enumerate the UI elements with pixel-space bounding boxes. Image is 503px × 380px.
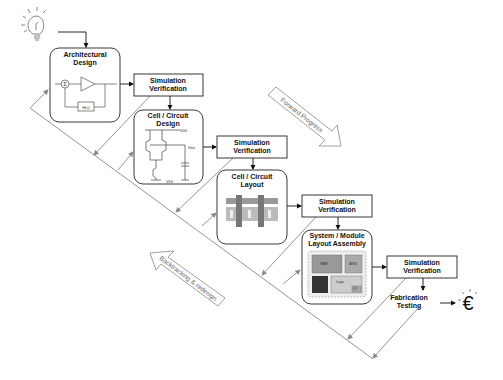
svg-text:Cell / Circuit: Cell / Circuit (232, 173, 274, 180)
svg-text:Backtracking & redesign: Backtracking & redesign (158, 254, 219, 303)
stage-system-module-layout: System / Module Layout Assembly RAM ARM … (302, 230, 372, 304)
svg-text:ARM: ARM (349, 262, 357, 266)
svg-text:Architectural: Architectural (63, 51, 106, 58)
svg-text:H(s): H(s) (82, 105, 90, 110)
svg-text:VDD: VDD (180, 129, 188, 133)
svg-text:Verification: Verification (318, 206, 356, 213)
simulation-verification-2: Simulation Verification (217, 136, 287, 158)
svg-text:Testing: Testing (397, 302, 421, 310)
simulation-verification-3: Simulation Verification (302, 195, 372, 217)
svg-text:VSS: VSS (166, 180, 174, 184)
stage-cell-circuit-design: Cell / Circuit Design VDD Vout VSS (134, 110, 203, 184)
svg-text:Vout: Vout (188, 146, 195, 150)
svg-text:Simulation: Simulation (150, 77, 186, 84)
fabrication-testing: Fabrication Testing (390, 294, 428, 310)
design-flow-diagram: Architectural Design Σ H(s) Simulation V… (0, 0, 503, 380)
backtracking-arrow: Backtracking & redesign (150, 251, 225, 306)
svg-text:Verification: Verification (233, 147, 271, 154)
svg-text:Design: Design (156, 120, 179, 128)
svg-text:€: € (462, 292, 473, 314)
svg-text:I/O: I/O (353, 287, 358, 291)
stage-cell-circuit-layout: Cell / Circuit Layout (217, 170, 287, 244)
svg-text:System / Module: System / Module (309, 232, 364, 240)
start-arrow (58, 32, 86, 47)
svg-text:Design: Design (73, 59, 96, 67)
svg-text:Layout: Layout (241, 181, 265, 189)
lightbulb-icon (21, 7, 46, 40)
svg-text:Σ: Σ (63, 81, 67, 87)
svg-text:Layout Assembly: Layout Assembly (308, 240, 366, 248)
svg-text:Simulation: Simulation (404, 259, 440, 266)
svg-text:DSP: DSP (315, 283, 323, 287)
simulation-verification-1: Simulation Verification (134, 74, 203, 96)
svg-text:Simulation: Simulation (234, 139, 270, 146)
svg-text:RAM: RAM (320, 262, 328, 266)
svg-text:Forward Progress: Forward Progress (279, 96, 325, 135)
svg-text:Verification: Verification (403, 267, 441, 274)
svg-text:Fabrication: Fabrication (390, 294, 428, 301)
stage-architectural-design: Architectural Design Σ H(s) (50, 48, 120, 122)
svg-text:Logic: Logic (336, 280, 345, 284)
svg-text:Verification: Verification (149, 85, 187, 92)
svg-text:Simulation: Simulation (319, 198, 355, 205)
svg-text:Cell / Circuit: Cell / Circuit (148, 112, 190, 119)
euro-money-icon: € (458, 289, 477, 314)
simulation-verification-4: Simulation Verification (387, 256, 457, 278)
